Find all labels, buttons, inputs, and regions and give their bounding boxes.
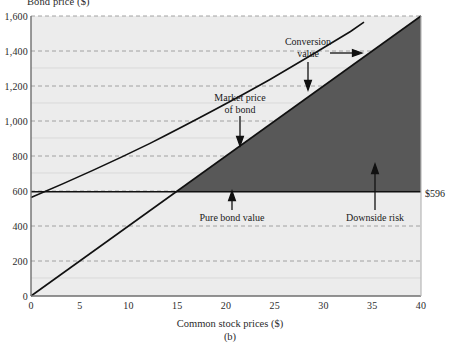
y-tick-1600: 1,600 bbox=[2, 11, 28, 22]
figure-panel-b: Bond price ($) 1,600 1,400 1,200 1,000 8… bbox=[0, 0, 460, 345]
annotation-market-price-of-bond: Market price of bond bbox=[180, 92, 300, 115]
y-tick-1200: 1,200 bbox=[2, 81, 28, 92]
y-tick-800: 800 bbox=[2, 151, 28, 162]
annotation-conversion-value: Conversion value bbox=[253, 36, 363, 59]
y-tick-1000: 1,000 bbox=[2, 116, 28, 127]
x-tick-40: 40 bbox=[416, 300, 426, 311]
y-tick-0: 0 bbox=[2, 291, 28, 302]
x-tick-0: 0 bbox=[28, 300, 33, 311]
x-tick-5: 5 bbox=[77, 300, 82, 311]
y-axis-title: Bond price ($) bbox=[27, 0, 90, 7]
annotation-market-price-line2: of bond bbox=[180, 104, 300, 116]
x-tick-20: 20 bbox=[221, 300, 231, 311]
x-tick-10: 10 bbox=[123, 300, 133, 311]
x-tick-35: 35 bbox=[367, 300, 377, 311]
y-tick-labels: 1,600 1,400 1,200 1,000 800 600 400 200 … bbox=[0, 0, 28, 345]
x-axis-title: Common stock prices ($) bbox=[0, 318, 460, 329]
y-tick-600: 600 bbox=[2, 186, 28, 197]
annotation-pure-bond-value: Pure bond value bbox=[172, 212, 292, 224]
x-tick-25: 25 bbox=[270, 300, 280, 311]
y-tick-400: 400 bbox=[2, 221, 28, 232]
annotation-pure-bond-value-line1: Pure bond value bbox=[172, 212, 292, 224]
y-tick-1400: 1,400 bbox=[2, 46, 28, 57]
annotation-market-price-line1: Market price bbox=[180, 92, 300, 104]
annotation-conversion-value-line2: value bbox=[253, 48, 363, 60]
y-tick-200: 200 bbox=[2, 256, 28, 267]
x-tick-30: 30 bbox=[318, 300, 328, 311]
annotation-conversion-value-line1: Conversion bbox=[253, 36, 363, 48]
convertible-bond-price-chart bbox=[0, 0, 460, 345]
panel-letter: (b) bbox=[0, 331, 460, 342]
annotation-downside-risk: Downside risk bbox=[320, 212, 430, 224]
annotation-downside-risk-line1: Downside risk bbox=[320, 212, 430, 224]
pure-bond-value-amount-label: $596 bbox=[425, 188, 445, 199]
x-tick-15: 15 bbox=[172, 300, 182, 311]
